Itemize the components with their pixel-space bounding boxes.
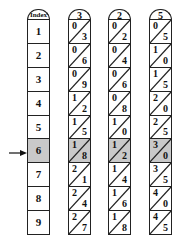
rod-header: 2 bbox=[108, 9, 131, 20]
rod-cell: 09 bbox=[68, 68, 91, 92]
tens-digit: 0 bbox=[112, 69, 117, 79]
units-digit: 2 bbox=[82, 104, 87, 114]
index-cell: 3 bbox=[27, 68, 50, 92]
tens-digit: 0 bbox=[72, 21, 77, 31]
rod-cell: 14 bbox=[108, 163, 131, 187]
index-cell: 1 bbox=[27, 20, 50, 44]
index-rod: Index 1 2 3 4 5 6 7 8 9 bbox=[27, 9, 50, 235]
rod-cell: 35 bbox=[149, 163, 172, 187]
tens-digit: 1 bbox=[112, 188, 117, 198]
units-digit: 2 bbox=[122, 32, 127, 42]
tens-digit: 1 bbox=[112, 140, 117, 150]
rod-cell: 20 bbox=[149, 92, 172, 116]
tens-digit: 2 bbox=[72, 164, 77, 174]
units-digit: 2 bbox=[122, 151, 127, 161]
index-cell: 8 bbox=[27, 187, 50, 211]
tens-digit: 1 bbox=[153, 69, 158, 79]
tens-digit: 3 bbox=[153, 140, 158, 150]
rod-cell: 03 bbox=[68, 20, 91, 44]
units-digit: 5 bbox=[82, 127, 87, 137]
rod-cell: 15 bbox=[68, 116, 91, 140]
tens-digit: 1 bbox=[72, 140, 77, 150]
tens-digit: 2 bbox=[153, 93, 158, 103]
units-digit: 5 bbox=[163, 80, 168, 90]
rod-cell: 40 bbox=[149, 187, 172, 211]
rod-cell-highlighted: 18 bbox=[68, 139, 91, 163]
units-digit: 0 bbox=[163, 56, 168, 66]
rod-cell: 16 bbox=[108, 187, 131, 211]
units-digit: 8 bbox=[122, 104, 127, 114]
napier-rod-3: 3030609121518212427 bbox=[68, 9, 91, 235]
rod-cell: 45 bbox=[149, 211, 172, 235]
rod-cell: 25 bbox=[149, 116, 172, 140]
rod-cell: 02 bbox=[108, 20, 131, 44]
rod-cell: 18 bbox=[108, 211, 131, 235]
rod-cell: 04 bbox=[108, 44, 131, 68]
rod-cell: 06 bbox=[108, 68, 131, 92]
rod-cell: 15 bbox=[149, 68, 172, 92]
units-digit: 6 bbox=[122, 199, 127, 209]
units-digit: 6 bbox=[82, 56, 87, 66]
units-digit: 5 bbox=[163, 32, 168, 42]
tens-digit: 1 bbox=[112, 212, 117, 222]
tens-digit: 1 bbox=[112, 117, 117, 127]
index-cell: 9 bbox=[27, 211, 50, 235]
units-digit: 0 bbox=[163, 104, 168, 114]
units-digit: 0 bbox=[163, 199, 168, 209]
tens-digit: 1 bbox=[72, 117, 77, 127]
napier-rod-5: 5051015202530354045 bbox=[149, 9, 172, 235]
rod-cell: 21 bbox=[68, 163, 91, 187]
units-digit: 4 bbox=[82, 199, 87, 209]
tens-digit: 2 bbox=[72, 188, 77, 198]
tens-digit: 0 bbox=[112, 93, 117, 103]
rod-header: 3 bbox=[68, 9, 91, 20]
rod-cell: 05 bbox=[149, 20, 172, 44]
rod-cell: 27 bbox=[68, 211, 91, 235]
units-digit: 3 bbox=[82, 32, 87, 42]
rod-cell-highlighted: 12 bbox=[108, 139, 131, 163]
rod-cell: 10 bbox=[108, 116, 131, 140]
row-pointer-arrow-icon bbox=[9, 149, 27, 157]
index-cell-highlighted: 6 bbox=[27, 139, 50, 163]
units-digit: 5 bbox=[163, 223, 168, 233]
units-digit: 4 bbox=[122, 175, 127, 185]
units-digit: 4 bbox=[122, 56, 127, 66]
rod-cell: 12 bbox=[68, 92, 91, 116]
units-digit: 8 bbox=[122, 223, 127, 233]
tens-digit: 0 bbox=[112, 21, 117, 31]
tens-digit: 2 bbox=[72, 212, 77, 222]
tens-digit: 1 bbox=[72, 93, 77, 103]
tens-digit: 0 bbox=[72, 69, 77, 79]
tens-digit: 4 bbox=[153, 188, 158, 198]
index-cell: 4 bbox=[27, 92, 50, 116]
rod-cell: 10 bbox=[149, 44, 172, 68]
tens-digit: 0 bbox=[112, 45, 117, 55]
tens-digit: 3 bbox=[153, 164, 158, 174]
units-digit: 0 bbox=[122, 127, 127, 137]
index-cell: 2 bbox=[27, 44, 50, 68]
rod-cell: 08 bbox=[108, 92, 131, 116]
units-digit: 6 bbox=[122, 80, 127, 90]
units-digit: 8 bbox=[82, 151, 87, 161]
rod-cell-highlighted: 30 bbox=[149, 139, 172, 163]
napier-rod-2: 2020406081012141618 bbox=[108, 9, 131, 235]
index-cell: 7 bbox=[27, 163, 50, 187]
tens-digit: 0 bbox=[72, 45, 77, 55]
tens-digit: 2 bbox=[153, 117, 158, 127]
units-digit: 0 bbox=[163, 151, 168, 161]
units-digit: 5 bbox=[163, 127, 168, 137]
tens-digit: 1 bbox=[112, 164, 117, 174]
rod-cell: 06 bbox=[68, 44, 91, 68]
rod-cell: 24 bbox=[68, 187, 91, 211]
tens-digit: 1 bbox=[153, 45, 158, 55]
index-cell: 5 bbox=[27, 116, 50, 140]
index-rod-header: Index bbox=[27, 9, 50, 20]
units-digit: 1 bbox=[82, 175, 87, 185]
tens-digit: 0 bbox=[153, 21, 158, 31]
tens-digit: 4 bbox=[153, 212, 158, 222]
units-digit: 9 bbox=[82, 80, 87, 90]
rod-header: 5 bbox=[149, 9, 172, 20]
units-digit: 7 bbox=[82, 223, 87, 233]
units-digit: 5 bbox=[163, 175, 168, 185]
